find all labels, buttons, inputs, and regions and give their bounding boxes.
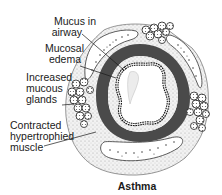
epithelium [117, 64, 168, 125]
label-contracted-hypertrophied-muscle: Contracted hypertrophied muscle [10, 120, 80, 153]
diagram-caption: Asthma [0, 180, 222, 192]
label-increased-mucous-glands: Increased mucous glands [0, 72, 72, 105]
label-line: glands [26, 94, 72, 105]
label-line: edema [38, 54, 84, 65]
label-mucosal-edema: Mucosal edema [38, 43, 84, 65]
label-mucus-in-airway: Mucus in airway [50, 16, 96, 38]
label-line: airway [50, 27, 96, 38]
label-line: muscle [10, 142, 80, 153]
